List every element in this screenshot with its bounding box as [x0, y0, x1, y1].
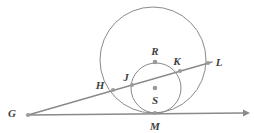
point-label-M: M: [150, 121, 160, 132]
point-dot-J: [130, 83, 134, 87]
point-label-G: G: [8, 108, 16, 119]
point-label-H: H: [96, 80, 105, 91]
point-label-R: R: [151, 46, 158, 57]
tangent-ray-gm: [28, 113, 243, 115]
point-dot-K: [178, 69, 182, 73]
point-dot-L: [206, 61, 210, 65]
point-dot-H: [111, 88, 115, 92]
point-dot-G: [26, 113, 30, 117]
arrowhead-icon: [243, 110, 250, 117]
point-label-K: K: [173, 56, 180, 67]
point-label-J: J: [123, 72, 129, 83]
point-label-L: L: [216, 57, 223, 68]
point-dot-R: [153, 60, 158, 65]
point-dot-S: [153, 86, 158, 91]
geometry-figure: G H J K L R S M: [0, 0, 254, 133]
point-dot-M: [153, 111, 157, 115]
point-label-S: S: [152, 95, 158, 106]
secant-line-gl: [28, 62, 212, 115]
